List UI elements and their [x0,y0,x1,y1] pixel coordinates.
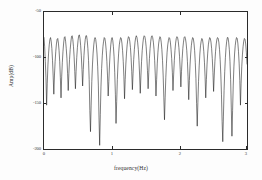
x-tick-label: 1 [104,152,120,157]
x-tick-mark-top [112,11,113,15]
x-tick-label: 3 [238,152,254,157]
x-axis-title: frequency(Hz) [0,165,262,171]
x-tick-label: 2 [172,152,188,157]
spectrum-line-series [44,12,247,149]
y-tick-mark [43,149,46,150]
y-tick-label: -100 [21,55,41,60]
figure-spectrum-plot: -50 -100 -150 -200 0 1 2 3 frequency(Hz)… [0,0,262,180]
y-tick-label: -150 [21,101,41,106]
x-tick-mark [180,146,181,150]
y-tick-label: -50 [21,9,41,14]
x-tick-mark-top [180,11,181,15]
y-tick-mark-right [245,103,248,104]
y-tick-label: -200 [21,147,41,152]
y-tick-mark [43,103,46,104]
y-axis-title: Amp(dB) [8,46,14,106]
y-tick-mark [43,57,46,58]
x-tick-mark [112,146,113,150]
y-tick-mark-right [245,57,248,58]
x-axis-tick-labels: 0 1 2 3 [0,152,262,162]
y-tick-mark [43,11,46,12]
plot-area [43,11,248,150]
x-tick-mark [246,146,247,150]
x-tick-label: 0 [36,152,52,157]
